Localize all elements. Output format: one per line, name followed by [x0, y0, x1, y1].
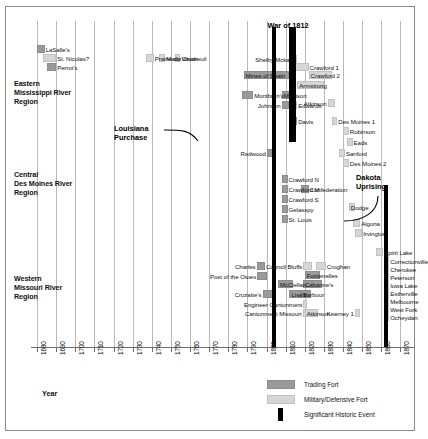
timeline-bar: [332, 117, 338, 125]
timeline-item-label: McClellan: [280, 281, 306, 288]
legend-swatch-trading-fort: [267, 380, 295, 389]
x-tick-1770: [209, 348, 210, 352]
x-tick-label-1750: 1750: [174, 341, 181, 355]
x-tick-1870: [400, 348, 401, 352]
x-axis-title: Year: [42, 389, 57, 398]
x-tick-1710: [94, 348, 95, 352]
timeline-item-label: Gelasspy: [289, 206, 314, 213]
timeline-item-label: Mines of Spain: [246, 72, 286, 79]
timeline-item-label: Armstrong: [299, 82, 327, 89]
x-tick-label-1780: 1780: [231, 341, 238, 355]
timeline-item-label: Council Bluffs: [266, 263, 302, 270]
x-axis-line: [31, 347, 415, 348]
timeline-item-label: Cantonment Missouri: [245, 310, 302, 317]
timeline-item-label: Eads: [354, 139, 368, 146]
x-tick-label-1810: 1810: [289, 341, 296, 355]
gridline-1740: [152, 21, 153, 347]
gridline-1790: [247, 21, 248, 347]
x-tick-label-1820: 1820: [308, 341, 315, 355]
timeline-item-label: Cherokee: [390, 266, 416, 273]
timeline-item-label: Redwood: [241, 150, 266, 157]
annotation-du-line2: Uprising: [356, 182, 386, 191]
louisiana-purchase-leader-line: [164, 125, 224, 153]
x-tick-label-1710: 1710: [97, 341, 104, 355]
timeline-bar: [282, 215, 288, 223]
x-tick-label-1740: 1740: [155, 341, 162, 355]
timeline-bar: [295, 63, 308, 71]
timeline-bar: [282, 185, 288, 193]
x-tick-1680: [37, 348, 38, 352]
x-tick-1730: [133, 348, 134, 352]
x-tick-label-1760: 1760: [193, 341, 200, 355]
timeline-bar: [303, 262, 313, 270]
x-tick-label-1690: 1690: [59, 341, 66, 355]
timeline-item-label: Crawford N: [289, 176, 319, 183]
gridline-1800: [267, 21, 268, 347]
timeline-item-label: West Fork: [390, 306, 417, 313]
timeline-item-label: Cruzatte's: [235, 291, 262, 298]
timeline-bar: [43, 54, 56, 62]
x-tick-1740: [152, 348, 153, 352]
x-tick-label-1720: 1720: [117, 341, 124, 355]
timeline-plot-area: LaSalle'sSt. Nicolas?Perrot'sPrairie du …: [6, 7, 416, 432]
region-label-eastern: Eastern Mississippi River Region: [14, 79, 71, 107]
timeline-item-label: Perrot's: [57, 64, 77, 71]
timeline-item-label: Estherville: [390, 290, 418, 297]
x-tick-1750: [171, 348, 172, 352]
x-tick-label-1790: 1790: [250, 341, 257, 355]
timeline-bar: [257, 262, 265, 270]
chart-frame: LaSalle'sSt. Nicolas?Perrot'sPrairie du …: [5, 6, 415, 431]
timeline-bar: [37, 45, 45, 53]
gridline-1810: [286, 21, 287, 347]
x-tick-label-1850: 1850: [365, 341, 372, 355]
timeline-bar: [282, 195, 288, 203]
gridline-1780: [228, 21, 229, 347]
timeline-bar: [355, 309, 361, 317]
timeline-bar: [328, 99, 336, 107]
x-tick-label-1800: 1800: [270, 341, 277, 355]
timeline-item-label: Kearney 1: [327, 310, 354, 317]
timeline-item-label: Peterson: [390, 274, 414, 281]
timeline-item-label: Iowa Lake: [390, 282, 417, 289]
legend-label-trading-fort: Trading Fort: [304, 381, 339, 388]
timeline-item-label: Sanford: [346, 150, 367, 157]
timeline-item-label: St. Louis: [289, 216, 312, 223]
x-tick-1760: [190, 348, 191, 352]
timeline-item-label: Shelby/Mckay: [255, 56, 292, 63]
timeline-item-label: Edwards: [298, 102, 321, 109]
annotation-war-of-1812: War of 1812: [267, 21, 308, 30]
timeline-bar: [303, 300, 307, 308]
timeline-item-label: Crawford 2: [311, 72, 340, 79]
timeline-item-label: St. Nicolas?: [57, 55, 89, 62]
timeline-item-label: Charles: [235, 263, 256, 270]
timeline-item-label: Spirit Lake: [384, 249, 412, 256]
timeline-item-label: Crawford S: [289, 196, 319, 203]
timeline-bar: [282, 205, 288, 213]
timeline-item-label: Fontenelles: [307, 272, 338, 279]
timeline-item-label: Montbrun's: [254, 92, 283, 99]
annotation-lp-line1: Louisiana: [114, 124, 149, 133]
timeline-item-label: Des Moines 2: [350, 160, 387, 167]
region-label-western-line2: Missouri River: [14, 283, 62, 292]
legend-label-historic-event: Significant Historic Event: [304, 411, 375, 418]
legend-swatch-military-fort: [267, 395, 295, 404]
timeline-bar: [257, 272, 267, 280]
timeline-item-label: Vaudreuil: [181, 55, 206, 62]
timeline-item-label: Madison: [284, 92, 307, 99]
timeline-item-label: Johnson: [258, 102, 281, 109]
x-tick-1700: [75, 348, 76, 352]
region-label-central: Central Des Moines River Region: [14, 170, 72, 198]
timeline-bar: [347, 138, 353, 146]
annotation-louisiana-purchase: Louisiana Purchase: [114, 124, 149, 142]
gridline-1720: [114, 21, 115, 347]
region-label-western: Western Missouri River Region: [14, 274, 62, 302]
x-tick-1690: [56, 348, 57, 352]
timeline-bar: [242, 91, 253, 99]
legend-swatch-historic-event: [278, 408, 283, 421]
timeline-item-label: Post of the Otoes: [210, 273, 256, 280]
x-tick-1830: [324, 348, 325, 352]
x-tick-label-1730: 1730: [136, 341, 143, 355]
timeline-item-label: Correctionville: [390, 258, 428, 265]
timeline-bar: [282, 175, 288, 183]
timeline-item-label: Ocheydan: [390, 314, 417, 321]
